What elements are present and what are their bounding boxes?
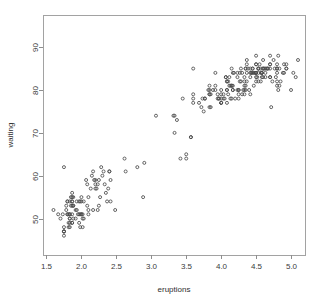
x-tick-label: 5.0 (286, 262, 298, 271)
x-tick-label: 3.0 (146, 262, 158, 271)
x-tick-label: 1.5 (41, 262, 53, 271)
y-tick-label: 70 (31, 129, 40, 138)
x-tick-label: 3.5 (181, 262, 193, 271)
y-tick-label: 50 (31, 215, 40, 224)
y-axis-title: waiting (6, 123, 15, 149)
x-tick-label: 4.0 (216, 262, 228, 271)
y-tick-label: 90 (31, 43, 40, 52)
x-tick-label: 2.5 (111, 262, 123, 271)
x-axis-title: eruptions (158, 285, 191, 294)
y-tick-label: 80 (31, 86, 40, 95)
y-tick-label: 60 (31, 172, 40, 181)
figure-background (0, 0, 316, 303)
plot-canvas: 1.52.02.53.03.54.04.55.0 5060708090 erup… (0, 0, 316, 303)
x-tick-label: 4.5 (251, 262, 263, 271)
scatter-plot-figure: 1.52.02.53.03.54.04.55.0 5060708090 erup… (0, 0, 316, 303)
x-tick-label: 2.0 (76, 262, 88, 271)
